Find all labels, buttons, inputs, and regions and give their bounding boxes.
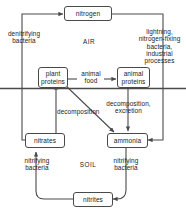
label-nitrifying-bacteria-right: nitrifying bacteria — [104, 157, 148, 172]
node-nitrates[interactable]: nitrates — [25, 133, 65, 148]
label-denitrifying-bacteria: denitrifying bacteria — [0, 30, 48, 45]
soil-zone-label: SOIL — [73, 161, 103, 168]
air-zone-label: AIR — [74, 38, 104, 45]
node-nitrites-label: nitrites — [74, 196, 112, 203]
node-nitrites[interactable]: nitrites — [73, 192, 113, 207]
nitrogen-cycle-diagram: nitrogen plant proteins animal proteins … — [0, 0, 186, 214]
node-ammonia-label: ammonia — [108, 137, 147, 144]
label-animal-food: animal food — [76, 70, 106, 85]
node-nitrates-label: nitrates — [26, 137, 64, 144]
node-plant-proteins[interactable]: plant proteins — [38, 67, 68, 88]
node-plant-proteins-label: plant proteins — [39, 70, 67, 85]
label-nitrifying-bacteria-left: nitrifying bacteria — [15, 157, 59, 172]
node-animal-proteins[interactable]: animal proteins — [117, 67, 150, 88]
node-nitrogen-label: nitrogen — [65, 10, 111, 17]
node-nitrogen[interactable]: nitrogen — [64, 6, 112, 21]
node-ammonia[interactable]: ammonia — [107, 133, 148, 148]
label-decomposition-excretion: decomposition, excretion — [102, 100, 155, 115]
node-animal-proteins-label: animal proteins — [118, 70, 149, 85]
label-lightning-fixation: lightning, nitrogen-fixing bacteria, ind… — [133, 28, 186, 64]
edge-ammonia-to-nitrites — [113, 148, 126, 199]
